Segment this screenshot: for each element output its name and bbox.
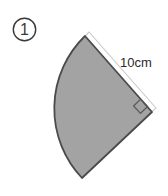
dimension-label: 10cm [120,55,152,70]
geometry-figure: 1 10cm [0,0,168,196]
problem-marker-number: 1 [20,21,29,38]
figure-canvas: 1 10cm [0,0,168,196]
